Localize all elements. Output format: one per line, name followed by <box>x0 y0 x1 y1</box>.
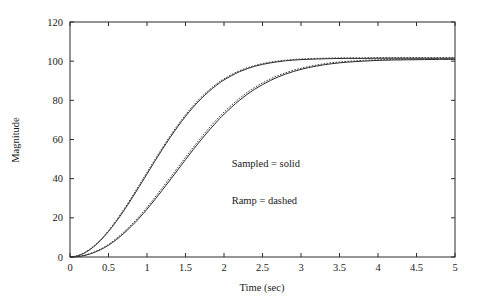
x-tick-label: 1 <box>144 262 149 273</box>
x-tick-label: 0.5 <box>102 262 115 273</box>
x-tick-label: 4 <box>375 262 381 273</box>
y-tick-label: 80 <box>53 95 64 106</box>
x-tick-label: 3 <box>298 262 303 273</box>
x-tick-label: 5 <box>452 262 457 273</box>
y-tick-label: 120 <box>47 17 63 28</box>
figure-canvas: 00.511.522.533.544.55 020406080100120 Sa… <box>0 0 479 308</box>
x-tick-label: 1.5 <box>179 262 192 273</box>
x-tick-label: 2 <box>221 262 226 273</box>
y-tick-label: 0 <box>58 252 63 263</box>
line-chart: 00.511.522.533.544.55 020406080100120 Sa… <box>0 0 479 308</box>
x-tick-label: 4.5 <box>410 262 423 273</box>
annotation-label: Ramp = dashed <box>232 195 298 206</box>
y-tick-label: 40 <box>53 173 64 184</box>
x-tick-label: 0 <box>67 262 72 273</box>
x-tick-label: 2.5 <box>256 262 269 273</box>
x-axis-title: Time (sec) <box>240 282 285 294</box>
y-tick-label: 20 <box>53 212 64 223</box>
y-tick-label: 100 <box>47 56 63 67</box>
annotation-label: Sampled = solid <box>232 158 301 169</box>
y-axis-title: Magnitude <box>10 117 21 163</box>
y-tick-label: 60 <box>53 134 64 145</box>
x-tick-label: 3.5 <box>333 262 346 273</box>
